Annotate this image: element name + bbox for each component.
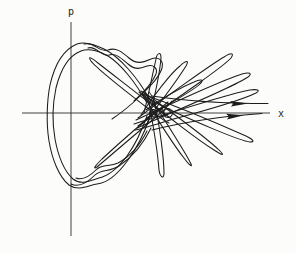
p-axis-label: p xyxy=(68,6,74,17)
phase-portrait-svg: p x xyxy=(0,0,296,253)
phase-portrait-figure: p x xyxy=(0,0,296,253)
escape-line-upper xyxy=(152,96,268,104)
arrows-group xyxy=(226,101,248,120)
escape-line-lower xyxy=(152,114,262,131)
escape-arrow-upper xyxy=(230,101,248,107)
x-axis-label: x xyxy=(278,108,284,119)
